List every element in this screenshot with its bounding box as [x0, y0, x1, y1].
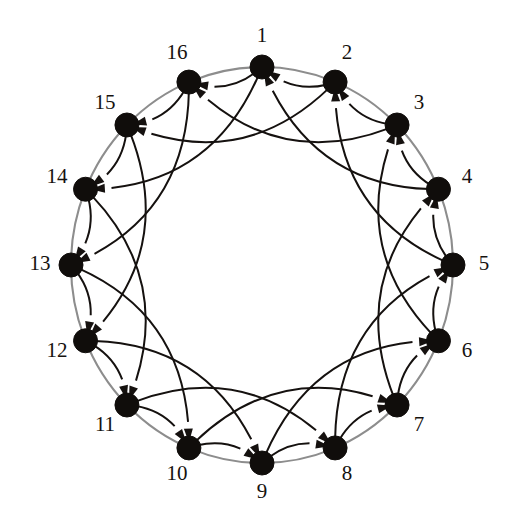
graph-edge — [85, 198, 90, 243]
graph-edge — [402, 151, 431, 185]
graph-node-1[interactable] — [250, 55, 274, 79]
graph-canvas: 12345678910111213141516 — [0, 0, 515, 520]
graph-edge — [77, 272, 91, 315]
graph-node-2[interactable] — [323, 70, 347, 94]
graph-edge — [378, 208, 421, 396]
graph-node-5[interactable] — [441, 253, 465, 277]
label-layer: 12345678910111213141516 — [30, 23, 490, 503]
node-label-9: 9 — [257, 479, 268, 503]
node-label-6: 6 — [462, 338, 473, 362]
node-label-14: 14 — [46, 164, 68, 188]
graph-edge — [214, 73, 255, 87]
node-label-10: 10 — [167, 461, 188, 485]
graph-node-9[interactable] — [250, 451, 274, 475]
graph-node-13[interactable] — [59, 253, 83, 277]
node-layer — [59, 55, 465, 475]
graph-edge — [135, 388, 316, 431]
node-label-5: 5 — [479, 251, 490, 275]
graph-node-15[interactable] — [115, 113, 139, 137]
graph-node-11[interactable] — [115, 393, 139, 417]
node-label-2: 2 — [342, 40, 353, 64]
graph-edge — [339, 411, 371, 440]
graph-node-8[interactable] — [323, 436, 347, 460]
graph-edge — [398, 356, 417, 396]
graph-edge — [269, 443, 310, 457]
node-label-16: 16 — [167, 40, 188, 64]
graph-node-3[interactable] — [385, 113, 409, 137]
node-label-12: 12 — [46, 338, 67, 362]
graph-edge — [349, 104, 388, 124]
graph-edge — [433, 215, 447, 258]
node-label-15: 15 — [95, 90, 116, 114]
node-label-1: 1 — [257, 23, 268, 47]
node-label-4: 4 — [462, 164, 473, 188]
node-label-3: 3 — [414, 90, 425, 114]
graph-figure: 12345678910111213141516 — [0, 0, 515, 520]
graph-edge — [208, 100, 389, 143]
graph-node-6[interactable] — [426, 329, 450, 353]
graph-edge — [284, 81, 327, 86]
graph-node-4[interactable] — [426, 177, 450, 201]
graph-edge — [152, 90, 184, 119]
graph-node-12[interactable] — [74, 329, 98, 353]
graph-edge — [93, 345, 122, 379]
node-label-7: 7 — [414, 412, 425, 436]
graph-node-16[interactable] — [177, 70, 201, 94]
node-label-13: 13 — [30, 251, 51, 275]
node-label-8: 8 — [342, 461, 353, 485]
graph-edge — [107, 134, 126, 174]
graph-node-14[interactable] — [74, 177, 98, 201]
node-label-11: 11 — [95, 412, 115, 436]
graph-edge — [136, 406, 175, 426]
graph-edge — [103, 133, 146, 321]
graph-node-10[interactable] — [177, 436, 201, 460]
graph-node-7[interactable] — [385, 393, 409, 417]
graph-edge — [433, 287, 438, 332]
graph-edge — [198, 443, 241, 448]
